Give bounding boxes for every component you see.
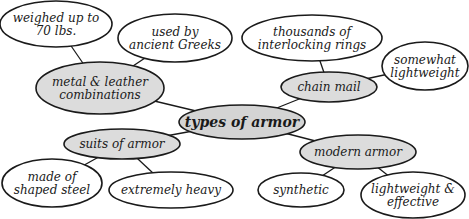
detail-node-greeks: used byancient Greeks [118,14,232,62]
node-label: used by [152,25,199,39]
detail-node-heavy: extremely heavy [109,172,233,208]
node-label: lightweight [390,66,460,80]
detail-node-rings: thousands ofinterlocking rings [242,15,382,61]
node-label: modern armor [314,145,403,159]
detail-node-synthetic: synthetic [258,173,344,207]
node-label: ancient Greeks [129,38,221,52]
node-label: effective [387,195,439,209]
node-label: types of armor [185,114,301,130]
subtopic-node-chain: chain mail [281,72,377,102]
node-label: interlocking rings [258,38,367,52]
node-label: thousands of [273,25,353,39]
node-label: extremely heavy [121,183,221,197]
node-label: chain mail [297,80,360,94]
nodes-layer: types of armormetal & leathercombination… [0,1,468,218]
subtopic-node-metal: metal & leathercombinations [36,62,164,114]
node-label: made of [28,170,79,184]
detail-node-somewhat: somewhatlightweight [382,42,468,90]
central-node-center: types of armor [179,105,305,139]
node-label: suits of armor [79,137,165,151]
subtopic-node-modern: modern armor [300,135,416,169]
node-label: metal & leather [52,75,149,89]
detail-node-steel: made ofshaped steel [2,159,102,207]
node-label: combinations [59,88,141,102]
node-label: shaped steel [14,183,91,197]
node-label: lightweight & [371,182,455,196]
node-label: somewhat [394,53,456,67]
concept-map: types of armormetal & leathercombination… [0,0,469,219]
node-label: synthetic [273,183,329,197]
detail-node-weighed: weighed up to70 lbs. [0,1,112,47]
node-label: 70 lbs. [36,24,77,38]
detail-node-effective: lightweight &effective [361,172,465,218]
node-label: weighed up to [13,11,100,25]
subtopic-node-suits: suits of armor [64,129,180,159]
